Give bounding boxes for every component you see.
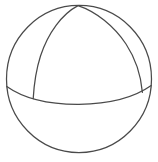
sphere-figure-container: Sphere Line drawing of a sphere with an … <box>0 0 158 162</box>
sphere-diagram <box>0 0 158 162</box>
figure-background <box>0 0 158 162</box>
